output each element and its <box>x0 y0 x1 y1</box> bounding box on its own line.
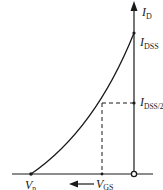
id-axis-arrowhead <box>131 1 138 11</box>
idss-half-point <box>132 101 135 104</box>
idss-point <box>132 31 135 34</box>
origin-point <box>131 171 136 176</box>
vgs-direction-arrowhead <box>69 181 78 188</box>
id-label: ID <box>141 5 152 21</box>
transfer-characteristic-diagram: ID IDSS IDSS/2 Vp VGS <box>0 0 163 190</box>
vp-point <box>29 172 33 176</box>
vgs-label: VGS <box>96 177 114 190</box>
idss-label: IDSS <box>139 35 159 51</box>
vp-label: Vp <box>25 178 36 190</box>
vgs-point <box>101 173 104 176</box>
idss-half-label: IDSS/2 <box>139 95 163 111</box>
